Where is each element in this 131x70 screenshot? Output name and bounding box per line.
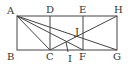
label-a: A (6, 5, 15, 16)
label-j: J (74, 26, 79, 37)
geometry-diagram: A B C D E F G H I J (0, 0, 131, 70)
label-h: H (114, 4, 123, 15)
label-e: E (79, 4, 86, 15)
label-i: I (68, 53, 72, 64)
label-g: G (113, 51, 121, 62)
label-b: B (7, 51, 14, 62)
label-c: C (46, 51, 54, 62)
label-f: F (79, 51, 86, 62)
label-d: D (46, 4, 54, 15)
